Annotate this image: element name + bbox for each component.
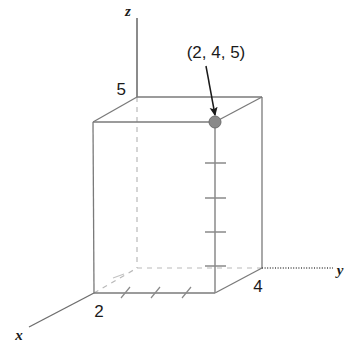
top-right-diagonal-edge [215, 97, 262, 122]
x-axis-line [29, 293, 94, 327]
box-vertical-edges-group [93, 97, 262, 293]
plotted-point-group [209, 116, 221, 128]
z-axis-label: z [124, 3, 131, 19]
x-axis-hatch-ticks-group [113, 274, 191, 298]
x-tick-label-2: 2 [94, 302, 103, 321]
point-annotation-group: (2, 4, 5) [187, 43, 246, 115]
annotation-arrow [206, 66, 215, 115]
box-bottom-face-group [94, 268, 262, 293]
y-axis-label: y [335, 262, 344, 278]
front-left-vertical-edge [93, 122, 94, 293]
x-axis-label: x [14, 327, 23, 343]
z-tick-label-5: 5 [117, 80, 126, 99]
top-left-diagonal-edge [93, 97, 137, 122]
point-coordinate-label: (2, 4, 5) [187, 43, 246, 62]
y-tick-label-4: 4 [253, 277, 262, 296]
coordinate-figure: z [0, 0, 349, 349]
box-hidden-edges-group [94, 97, 262, 293]
tick-labels-group: 5 2 4 [94, 80, 262, 321]
y-axis-group: y [262, 262, 344, 278]
x-axis-group: x [14, 293, 94, 343]
z-drop-line-group [205, 122, 226, 293]
box-top-face-group [93, 97, 262, 122]
hidden-bottom-left-diagonal-edge [94, 268, 137, 293]
figure-canvas: z [0, 0, 349, 349]
z-axis-group: z [124, 3, 137, 97]
plotted-point-marker [209, 116, 221, 128]
